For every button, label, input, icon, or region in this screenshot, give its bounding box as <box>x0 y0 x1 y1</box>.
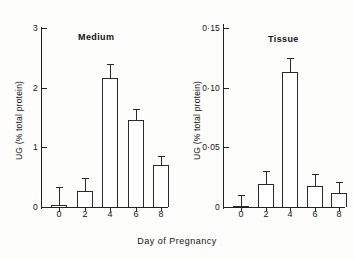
panel-title-tissue: Tissue <box>268 34 299 44</box>
x-tick-label-tissue-4: 8 <box>332 209 346 219</box>
x-tick-label-tissue-2: 4 <box>283 209 297 219</box>
error-bar-cap-medium-day-6 <box>133 109 140 110</box>
error-bar-cap-tissue-day-0 <box>238 195 245 196</box>
error-bar-cap-tissue-day-2 <box>263 171 270 172</box>
error-bar-line-tissue-day-0 <box>241 195 242 206</box>
bar-medium-day-8 <box>153 165 169 207</box>
error-bar-line-tissue-day-2 <box>266 171 267 184</box>
y-tick-label-medium-3: 3 <box>28 23 38 33</box>
x-tick-label-medium-2: 4 <box>103 209 117 219</box>
y-tick-label-medium-0: 0 <box>28 202 38 212</box>
y-tick-tissue-3 <box>224 28 229 29</box>
error-bar-cap-medium-day-4 <box>107 64 114 65</box>
y-tick-tissue-1 <box>224 147 229 148</box>
y-tick-label-tissue-3: 0·15 <box>194 23 220 33</box>
plot-area-medium: Medium UG (% total protein) 0123 02468 <box>0 0 178 259</box>
bar-tissue-day-4 <box>282 72 298 207</box>
chart-panel-tissue: Tissue UG (% total protein) 00·050·100·1… <box>176 0 354 259</box>
y-tick-label-tissue-0: 0 <box>194 202 220 212</box>
panel-title-medium: Medium <box>78 32 114 42</box>
bar-tissue-day-8 <box>331 193 347 207</box>
y-tick-medium-1 <box>42 147 47 148</box>
y-axis-line-tissue <box>223 24 224 209</box>
error-bar-cap-tissue-day-8 <box>336 182 343 183</box>
bar-tissue-day-6 <box>307 186 323 207</box>
error-bar-cap-medium-day-0 <box>56 187 63 188</box>
y-tick-medium-3 <box>42 28 47 29</box>
x-tick-label-medium-0: 0 <box>52 209 66 219</box>
x-tick-label-tissue-0: 0 <box>234 209 248 219</box>
bar-tissue-day-2 <box>258 184 274 207</box>
y-tick-label-medium-1: 1 <box>28 142 38 152</box>
x-tick-label-medium-4: 8 <box>154 209 168 219</box>
error-bar-line-medium-day-6 <box>136 109 137 121</box>
y-tick-medium-2 <box>42 88 47 89</box>
bar-medium-day-0 <box>51 205 67 207</box>
error-bar-cap-tissue-day-4 <box>287 58 294 59</box>
error-bar-line-medium-day-4 <box>110 64 111 77</box>
x-tick-label-medium-1: 2 <box>78 209 92 219</box>
error-bar-line-tissue-day-6 <box>315 174 316 186</box>
bar-medium-day-2 <box>77 191 93 207</box>
x-tick-label-tissue-3: 6 <box>308 209 322 219</box>
bar-medium-day-6 <box>128 120 144 207</box>
error-bar-cap-medium-day-8 <box>158 156 165 157</box>
error-bar-line-tissue-day-8 <box>339 182 340 193</box>
y-axis-label-medium: UG (% total protein) <box>14 81 24 160</box>
chart-panel-medium: Medium UG (% total protein) 0123 02468 <box>0 0 178 259</box>
plot-area-tissue: Tissue UG (% total protein) 00·050·100·1… <box>176 0 354 259</box>
x-axis-line-medium <box>41 207 168 208</box>
y-tick-label-tissue-1: 0·05 <box>194 142 220 152</box>
error-bar-line-tissue-day-4 <box>290 58 291 72</box>
y-tick-tissue-2 <box>224 88 229 89</box>
bar-tissue-day-0 <box>233 206 249 208</box>
y-tick-medium-0 <box>42 207 47 208</box>
error-bar-line-medium-day-2 <box>85 178 86 191</box>
x-axis-label: Day of Pregnancy <box>0 236 354 246</box>
bar-medium-day-4 <box>102 78 118 207</box>
error-bar-line-medium-day-0 <box>59 187 60 205</box>
y-tick-label-medium-2: 2 <box>28 83 38 93</box>
figure-canvas: Medium UG (% total protein) 0123 02468 T… <box>0 0 354 259</box>
x-tick-label-tissue-1: 2 <box>259 209 273 219</box>
error-bar-line-medium-day-8 <box>161 156 162 165</box>
error-bar-cap-medium-day-2 <box>82 178 89 179</box>
error-bar-cap-tissue-day-6 <box>312 174 319 175</box>
y-tick-label-tissue-2: 0·10 <box>194 83 220 93</box>
x-tick-label-medium-3: 6 <box>129 209 143 219</box>
y-tick-tissue-0 <box>224 207 229 208</box>
y-axis-line-medium <box>41 27 42 209</box>
